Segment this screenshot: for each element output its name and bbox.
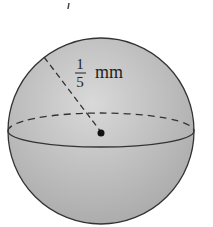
label-numerator: 1 (76, 56, 84, 72)
label-unit: mm (95, 62, 123, 82)
sphere-diagram: 1 5 mm (0, 0, 213, 227)
center-point (98, 130, 105, 137)
stray-mark (68, 3, 69, 9)
label-denominator: 5 (76, 74, 84, 90)
